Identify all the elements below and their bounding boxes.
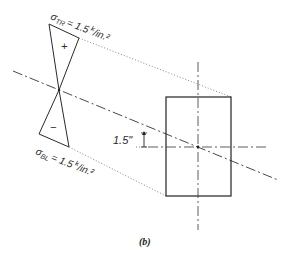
top-projection-line (79, 38, 231, 97)
svg-text:σBL= 1.5k/in.²: σBL= 1.5k/in.² (34, 145, 97, 179)
centroid-point (197, 146, 200, 149)
plus-sign: + (61, 40, 68, 52)
compression-triangle (49, 24, 79, 90)
tension-triangle (39, 90, 69, 147)
bottom-stress-label: σBL= 1.5k/in.² (34, 145, 97, 179)
svg-text:σTR= 1.5k/in.²: σTR= 1.5k/in.² (49, 10, 112, 45)
minus-sign: − (50, 121, 57, 133)
diagram-svg: + − σTR= 1.5k/in.² σBL= 1.5k/in.² 1.5" (… (0, 0, 289, 259)
top-stress-label: σTR= 1.5k/in.² (49, 10, 112, 45)
stress-distribution-diagram: + − σTR= 1.5k/in.² σBL= 1.5k/in.² 1.5" (… (0, 0, 289, 259)
stress-triangles (39, 24, 79, 147)
eccentricity-label: 1.5" (113, 134, 133, 146)
figure-caption: (b) (139, 236, 151, 248)
stress-zero-point (58, 89, 60, 91)
